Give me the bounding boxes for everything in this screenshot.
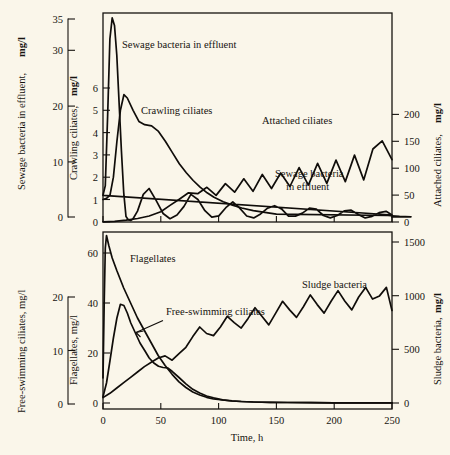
bottom-outer-left-tick-0: 0	[58, 399, 63, 410]
annotation-sewage-bacteria-low-1: Sewage bacteria	[275, 168, 344, 179]
top-right-tick-0: 0	[404, 217, 409, 228]
top-inner-left-axis-title: Crawling ciliates,	[68, 106, 79, 180]
bottom-outer-left-axis: 20 10 0 Free-swimming ciliates, mg/l	[16, 290, 75, 413]
top-right-tick-150: 150	[404, 136, 420, 147]
bottom-inner-left-axis-title: Flagellates, mg/l	[68, 315, 79, 385]
top-outer-left-axis: 35 30 20 10 0 Sewage bacteria in effluen…	[16, 14, 75, 223]
x-tick-150: 150	[269, 415, 285, 426]
x-tick-50: 50	[156, 415, 167, 426]
top-inner-left-axis-units: mg/l	[68, 76, 79, 96]
top-outer-left-axis-title: Sewage bacteria in effluent,	[16, 73, 27, 190]
annotation-flagellates: Flagellates	[130, 253, 176, 264]
top-right-axis-title: Attached ciliates,	[432, 134, 443, 207]
bottom-right-tick-1000: 1000	[404, 291, 425, 302]
annotation-sewage-bacteria-top: Sewage bacteria in effluent	[122, 39, 236, 50]
top-inner-left-tick-2: 2	[93, 172, 98, 183]
top-right-tick-100: 100	[404, 163, 420, 174]
top-outer-left-tick-10: 10	[53, 157, 64, 168]
bottom-inner-left-tick-60: 60	[88, 248, 99, 259]
top-inner-left-tick-6: 6	[93, 83, 98, 94]
bottom-right-axis: 1500 1000 500 0 Sludge bacteria, mg/l	[392, 237, 443, 409]
bottom-right-tick-500: 500	[404, 344, 420, 355]
annotation-sludge-bacteria: Sludge bacteria	[302, 279, 367, 290]
x-tick-0: 0	[100, 415, 105, 426]
x-tick-200: 200	[326, 415, 342, 426]
curve-sludge-bacteria	[103, 287, 392, 397]
bottom-outer-left-tick-10: 10	[53, 346, 64, 357]
bottom-outer-left-tick-20: 20	[53, 292, 64, 303]
bottom-inner-left-tick-40: 40	[88, 298, 99, 309]
top-right-axis-units: mg/l	[432, 103, 443, 123]
top-inner-left-axis: 6 5 4 3 2 1 0 Crawling ciliates, mg/l	[68, 76, 110, 228]
top-inner-left-tick-3: 3	[93, 150, 98, 161]
bottom-right-tick-0: 0	[404, 398, 409, 409]
top-outer-left-tick-20: 20	[53, 101, 64, 112]
bottom-inner-left-tick-20: 20	[88, 348, 99, 359]
top-outer-left-axis-units: mg/l	[16, 37, 27, 57]
bottom-right-tick-1500: 1500	[404, 237, 425, 248]
top-right-tick-200: 200	[404, 109, 420, 120]
top-outer-left-tick-35: 35	[53, 14, 64, 25]
bottom-right-axis-title: Sludge bacteria,	[432, 317, 443, 385]
top-panel: 35 30 20 10 0 Sewage bacteria in effluen…	[16, 13, 443, 228]
x-axis-title: Time, h	[231, 432, 264, 443]
bottom-inner-left-tick-0: 0	[93, 398, 98, 409]
top-right-axis: 200 150 100 50 0 Attached ciliates, mg/l	[392, 103, 443, 228]
two-panel-line-chart: 35 30 20 10 0 Sewage bacteria in effluen…	[0, 0, 450, 455]
x-tick-250: 250	[384, 415, 400, 426]
annotation-attached-ciliates: Attached ciliates	[262, 115, 332, 126]
top-inner-left-tick-5: 5	[93, 105, 98, 116]
top-outer-left-tick-30: 30	[53, 45, 64, 56]
x-tick-100: 100	[211, 415, 227, 426]
bottom-panel: 0 50 100 150 200 250 Time, h 20 10 0 Fre…	[16, 232, 443, 443]
figure-page: 35 30 20 10 0 Sewage bacteria in effluen…	[0, 0, 450, 455]
bottom-outer-left-axis-title: Free-swimming ciliates, mg/l	[16, 290, 27, 413]
top-inner-left-tick-4: 4	[93, 128, 99, 139]
top-outer-left-tick-0: 0	[58, 212, 63, 223]
top-inner-left-tick-1: 1	[93, 195, 98, 206]
annotation-free-swimming-ciliates: Free-swimming ciliates	[166, 306, 265, 317]
top-inner-left-tick-0: 0	[93, 217, 98, 228]
annotation-sewage-bacteria-low-2: in effluent	[286, 181, 329, 192]
top-right-tick-50: 50	[404, 190, 415, 201]
bottom-right-axis-units: mg/l	[432, 293, 443, 313]
annotation-crawling-ciliates: Crawling ciliates	[141, 105, 212, 116]
